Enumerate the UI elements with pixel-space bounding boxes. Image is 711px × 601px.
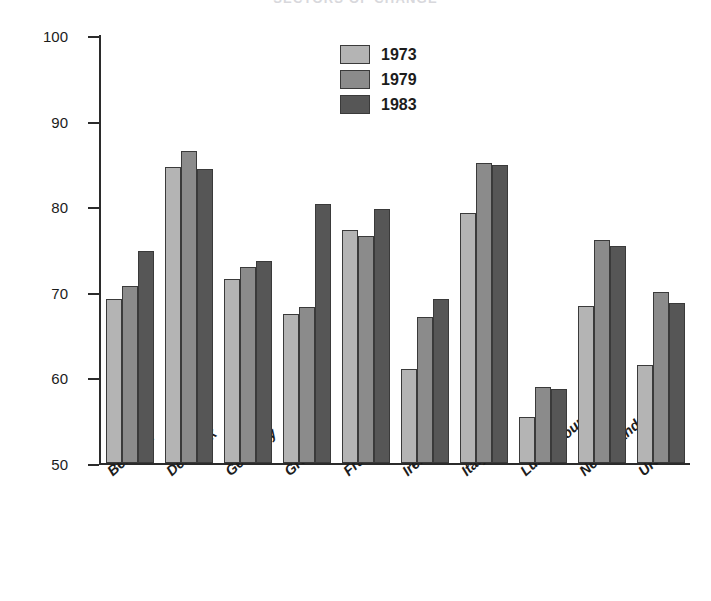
legend-item[interactable]: 1973 <box>340 42 417 67</box>
bar-group <box>283 35 331 463</box>
bar[interactable] <box>460 213 476 463</box>
bar[interactable] <box>653 292 669 463</box>
y-axis-tick <box>88 293 99 295</box>
legend-item[interactable]: 1979 <box>340 67 417 92</box>
y-axis-tick-label: 80 <box>22 199 68 216</box>
bar[interactable] <box>492 165 508 463</box>
bar[interactable] <box>637 365 653 463</box>
bar-group <box>106 35 154 463</box>
bar[interactable] <box>256 261 272 463</box>
bar[interactable] <box>342 230 358 463</box>
y-axis-tick-label: 70 <box>22 285 68 302</box>
y-axis-tick <box>88 122 99 124</box>
bar-group <box>224 35 272 463</box>
bar[interactable] <box>197 169 213 463</box>
bar[interactable] <box>535 387 551 463</box>
legend-label: 1973 <box>381 46 417 64</box>
y-axis-tick-label: 100 <box>22 28 68 45</box>
bar[interactable] <box>106 299 122 463</box>
y-axis-tick-label: 90 <box>22 114 68 131</box>
legend-swatch <box>340 70 370 89</box>
bar[interactable] <box>240 267 256 463</box>
y-axis-tick <box>88 378 99 380</box>
chart-figure: SECTORS OF CHANGE Hourly earnings (perce… <box>0 0 711 601</box>
y-axis-tick <box>88 36 99 38</box>
bar[interactable] <box>224 279 240 463</box>
bar[interactable] <box>165 167 181 463</box>
bar-group <box>578 35 626 463</box>
bar[interactable] <box>578 306 594 463</box>
bar[interactable] <box>417 317 433 463</box>
y-axis-tick <box>88 464 99 466</box>
bar-group <box>519 35 567 463</box>
bar[interactable] <box>358 236 374 463</box>
bar[interactable] <box>315 204 331 463</box>
legend-label: 1983 <box>381 96 417 114</box>
legend-swatch <box>340 95 370 114</box>
bar[interactable] <box>669 303 685 463</box>
legend-swatch <box>340 45 370 64</box>
bar[interactable] <box>476 163 492 463</box>
bar-group <box>637 35 685 463</box>
bar[interactable] <box>610 246 626 463</box>
bar[interactable] <box>519 417 535 463</box>
bar[interactable] <box>283 314 299 463</box>
legend-item[interactable]: 1983 <box>340 92 417 117</box>
y-axis-tick <box>88 207 99 209</box>
bar[interactable] <box>138 251 154 463</box>
y-axis-tick-label: 50 <box>22 456 68 473</box>
bar[interactable] <box>433 299 449 463</box>
bar[interactable] <box>181 151 197 463</box>
bar[interactable] <box>551 389 567 463</box>
legend-label: 1979 <box>381 71 417 89</box>
y-axis-tick-label: 60 <box>22 370 68 387</box>
x-axis-labels: BelgiumDenmarkGermanyGreeceFranceIreland… <box>99 467 690 597</box>
bar-group <box>460 35 508 463</box>
bar[interactable] <box>122 286 138 463</box>
bar[interactable] <box>594 240 610 463</box>
bar[interactable] <box>374 209 390 463</box>
legend: 197319791983 <box>340 42 417 117</box>
bar[interactable] <box>401 369 417 463</box>
chart-title: SECTORS OF CHANGE <box>0 0 711 6</box>
bar[interactable] <box>299 307 315 463</box>
bar-group <box>165 35 213 463</box>
